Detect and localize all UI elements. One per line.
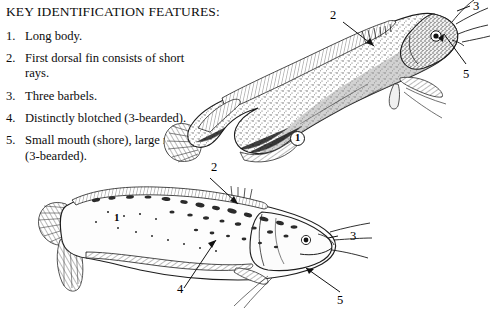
list-item-number: 2. [6, 51, 21, 66]
first-dorsal-fin-bottom [231, 186, 252, 199]
list-item-label: First dorsal fin consists of short rays. [25, 51, 184, 80]
callout-bottom-5: 5 [337, 294, 343, 307]
second-dorsal-fin-top [222, 21, 396, 111]
callout-bottom-2: 2 [211, 161, 217, 174]
leader-arrow-bottom-2 [230, 196, 238, 204]
body-shading-top [196, 20, 470, 176]
blotch-markings-bottom [91, 195, 297, 252]
pelvic-rays-bottom [234, 276, 272, 308]
leader-arrow-top-2 [366, 38, 374, 46]
list-item: 4. Distinctly blotched (3-bearded). [6, 111, 206, 126]
snout-line-bottom [318, 234, 334, 245]
figure-page: KEY IDENTIFICATION FEATURES: 1. Long bod… [0, 0, 490, 315]
list-item-label: Distinctly blotched (3-bearded). [25, 111, 186, 125]
leader-arrow-top-5 [438, 34, 444, 42]
list-item-number: 4. [6, 111, 21, 126]
pelvic-fin-top [389, 84, 399, 109]
list-item: 2. First dorsal fin consists of short ra… [6, 51, 206, 82]
first-dorsal-fin-top [362, 24, 391, 44]
list-item-number: 5. [6, 133, 21, 148]
pectoral-fin-bottom [234, 268, 268, 284]
list-item-number: 3. [6, 89, 21, 104]
leader-arrow-bottom-5 [306, 268, 314, 274]
anal-fin-bottom [86, 252, 253, 270]
list-item: 1. Long body. [6, 29, 206, 44]
list-item-label: Long body. [25, 29, 82, 43]
three-bearded-rockling-illustration [38, 178, 372, 308]
head-bottom [250, 212, 332, 271]
list-item-label: Small mouth (shore), large mouth (3-bear… [25, 133, 195, 162]
list-item: 5. Small mouth (shore), large mouth (3-b… [6, 133, 206, 164]
pupil-top [433, 33, 438, 38]
callout-bottom-1: 1 [114, 212, 120, 223]
shore-rockling-illustration [164, 0, 490, 176]
eye-top [431, 31, 441, 41]
callout-top-2: 2 [330, 9, 336, 22]
body-bottom [60, 192, 335, 280]
callout-leaders-top [343, 6, 470, 64]
page-title: KEY IDENTIFICATION FEATURES: [6, 4, 206, 20]
callout-top-5: 5 [463, 68, 469, 81]
second-dorsal-fin-bottom [72, 187, 268, 209]
callout-bottom-4: 4 [177, 283, 183, 296]
list-item-label: Three barbels. [25, 89, 97, 103]
list-item: 3. Three barbels. [6, 89, 206, 104]
pelvic-rays-top [404, 88, 446, 118]
pelvic-fin-bottom [57, 238, 83, 291]
head-top [400, 14, 457, 69]
callout-leaders-bottom [184, 178, 340, 292]
body-top [188, 13, 458, 153]
key-feature-list: 1. Long body. 2. First dorsal fin consis… [6, 29, 206, 165]
caudal-fin-bottom [38, 202, 76, 245]
pectoral-fin-top [400, 77, 443, 97]
mouth-top [452, 40, 464, 46]
pupil-bottom [304, 238, 309, 243]
gill-cover-line-top [409, 36, 418, 64]
key-identification-panel: KEY IDENTIFICATION FEATURES: 1. Long bod… [6, 4, 206, 171]
barbels-top [452, 0, 490, 42]
callout-bottom-3: 3 [350, 230, 356, 243]
list-item-number: 1. [6, 29, 21, 44]
callout-top-3: 3 [473, 0, 479, 13]
eye-bottom [301, 235, 310, 244]
callout-top-1: 1 [290, 131, 305, 146]
mouth-bottom [300, 248, 332, 255]
opercle-line-bottom [275, 218, 284, 264]
leader-arrow-bottom-4 [208, 240, 216, 248]
gill-cover-line-bottom [259, 214, 264, 266]
